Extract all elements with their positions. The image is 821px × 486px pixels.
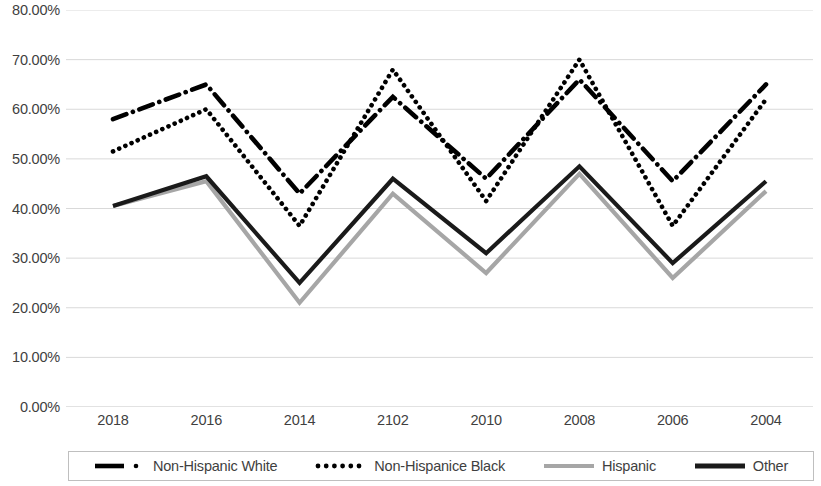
legend-item-label: Hispanic — [602, 459, 656, 474]
y-axis-tick-label: 60.00% — [0, 102, 60, 117]
x-axis-tick-label: 2010 — [470, 412, 501, 428]
y-axis-tick-label: 30.00% — [0, 251, 60, 266]
dotted-swatch — [315, 460, 367, 472]
y-axis-tick-label: 20.00% — [0, 301, 60, 316]
line-chart: 80.00%70.00%60.00%50.00%40.00%30.00%20.0… — [0, 0, 821, 486]
y-axis-tick-label: 10.00% — [0, 350, 60, 365]
plot-svg — [66, 10, 813, 407]
y-axis-tick-label: 50.00% — [0, 152, 60, 167]
x-axis-tick-label: 2008 — [564, 412, 595, 428]
legend-item[interactable]: Non-Hispanice Black — [315, 459, 505, 474]
x-axis: 20182016201421022010200820062004 — [66, 412, 813, 438]
solid-black-swatch — [694, 460, 746, 472]
x-axis-tick-label: 2004 — [750, 412, 781, 428]
x-axis-tick-label: 2018 — [97, 412, 128, 428]
y-axis-tick-label: 40.00% — [0, 202, 60, 217]
x-axis-tick-label: 2006 — [657, 412, 688, 428]
legend-item[interactable]: Non-Hispanic White — [94, 459, 278, 474]
dash-dot-swatch — [94, 460, 146, 472]
x-axis-tick-label: 2016 — [191, 412, 222, 428]
legend-item[interactable]: Hispanic — [543, 459, 656, 474]
solid-gray-swatch — [543, 460, 595, 472]
legend-item-label: Other — [753, 459, 788, 474]
series-lines — [113, 60, 766, 303]
gridlines — [66, 10, 813, 407]
series-line — [113, 60, 766, 226]
chart-legend: Non-Hispanic WhiteNon-Hispanice BlackHis… — [68, 451, 814, 481]
series-line — [113, 166, 766, 283]
y-axis-tick-label: 70.00% — [0, 53, 60, 68]
series-line — [113, 174, 766, 303]
y-axis: 80.00%70.00%60.00%50.00%40.00%30.00%20.0… — [0, 0, 60, 417]
plot-area — [66, 10, 813, 407]
legend-item-label: Non-Hispanic White — [153, 459, 278, 474]
x-axis-tick-label: 2102 — [377, 412, 408, 428]
y-axis-tick-label: 0.00% — [0, 400, 60, 415]
legend-item[interactable]: Other — [694, 459, 788, 474]
legend-item-label: Non-Hispanice Black — [374, 459, 505, 474]
x-axis-tick-label: 2014 — [284, 412, 315, 428]
y-axis-tick-label: 80.00% — [0, 3, 60, 18]
